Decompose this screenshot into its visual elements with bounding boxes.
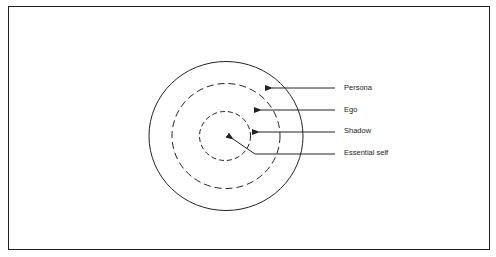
concentric-self-diagram — [0, 0, 496, 257]
shadow-circle — [200, 112, 251, 161]
shadow-label: Shadow — [344, 127, 371, 135]
essential-self-label: Essential self — [344, 149, 388, 157]
ego-circle — [172, 84, 280, 189]
ego-label: Ego — [344, 106, 357, 114]
persona-label: Persona — [344, 84, 372, 92]
